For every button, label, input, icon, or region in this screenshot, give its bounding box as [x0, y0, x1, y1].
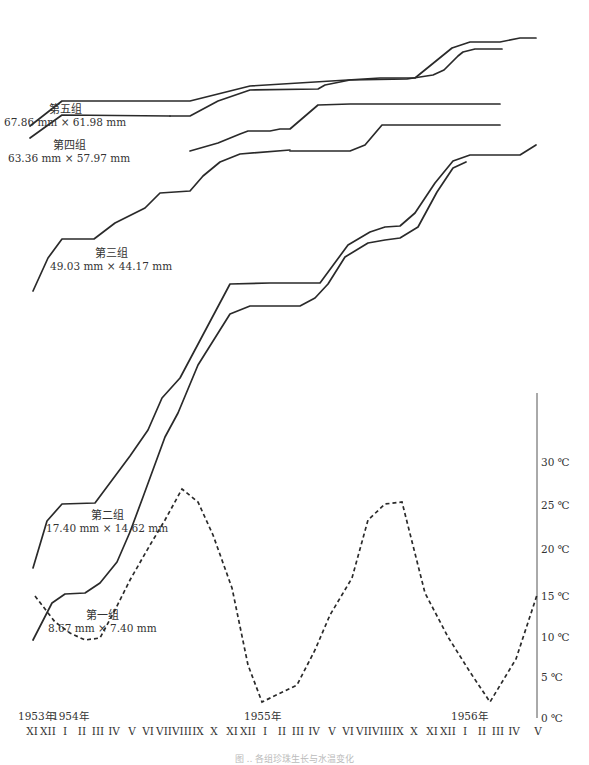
month-label: VII — [356, 725, 372, 737]
group-size: 17.40 mm × 14.62 mm — [46, 522, 168, 534]
month-label: XII — [240, 725, 256, 737]
month-label: VII — [156, 725, 172, 737]
group-size: 8.67 mm × 7.40 mm — [48, 622, 157, 634]
group-label: 第一组8.67 mm × 7.40 mm — [48, 610, 157, 634]
month-label: VI — [142, 725, 154, 737]
month-label: VI — [342, 725, 354, 737]
year-label: 1956年 — [451, 708, 488, 723]
month-label: VIII — [172, 725, 192, 737]
group-label: 第三组49.03 mm × 44.17 mm — [50, 248, 172, 272]
group-name: 第三组 — [50, 248, 172, 260]
month-label: XII — [440, 725, 456, 737]
group-name: 第四组 — [8, 140, 130, 152]
month-label: I — [263, 725, 267, 737]
month-label: II — [478, 725, 486, 737]
year-label: 1953年 — [18, 708, 55, 723]
month-label: IX — [392, 725, 404, 737]
month-label: II — [78, 725, 86, 737]
month-label: XI — [426, 725, 438, 737]
month-label: IV — [308, 725, 320, 737]
growth-curve-7 — [33, 162, 466, 640]
temperature-tick-label: 25 ℃ — [541, 499, 569, 511]
growth-curve-3 — [190, 104, 500, 151]
month-label: IV — [108, 725, 120, 737]
growth-curve-5 — [290, 125, 500, 151]
group-name: 第五组 — [4, 104, 126, 116]
group-label: 第四组63.36 mm × 57.97 mm — [8, 140, 130, 164]
temperature-tick-label: 15 ℃ — [541, 590, 569, 602]
series-lines — [30, 38, 537, 702]
month-label: V — [534, 725, 542, 737]
growth-curve-6 — [33, 145, 536, 568]
group-name: 第二组 — [46, 510, 168, 522]
temperature-tick-label: 5 ℃ — [541, 671, 563, 683]
month-label: XI — [26, 725, 38, 737]
group-name: 第一组 — [48, 610, 157, 622]
month-label: IX — [192, 725, 204, 737]
temperature-tick-label: 10 ℃ — [541, 631, 569, 643]
month-label: X — [410, 725, 417, 737]
temperature-tick-label: 20 ℃ — [541, 543, 569, 555]
month-label: V — [128, 725, 136, 737]
year-label: 1955年 — [244, 708, 281, 723]
month-label: IV — [508, 725, 520, 737]
month-label: II — [278, 725, 286, 737]
month-label: III — [292, 725, 304, 737]
month-label: XII — [40, 725, 56, 737]
month-label: VIII — [372, 725, 392, 737]
group-label: 第二组17.40 mm × 14.62 mm — [46, 510, 168, 534]
group-size: 49.03 mm × 44.17 mm — [50, 260, 172, 272]
growth-curve-1 — [170, 49, 502, 116]
group-size: 63.36 mm × 57.97 mm — [8, 152, 130, 164]
month-label: III — [92, 725, 104, 737]
month-label: III — [492, 725, 504, 737]
month-label: X — [210, 725, 217, 737]
temperature-tick-label: 0 ℃ — [541, 712, 563, 724]
year-label: 1954年 — [52, 708, 89, 723]
temperature-tick-label: 30 ℃ — [541, 456, 569, 468]
month-label: I — [63, 725, 67, 737]
month-label: XI — [226, 725, 238, 737]
month-label: V — [328, 725, 336, 737]
group-label: 第五组67.86 mm × 61.98 mm — [4, 104, 126, 128]
group-size: 67.86 mm × 61.98 mm — [4, 116, 126, 128]
month-label: I — [463, 725, 467, 737]
figure-caption: 图 ‥ 各组珍珠生长与水温变化 — [0, 752, 589, 765]
